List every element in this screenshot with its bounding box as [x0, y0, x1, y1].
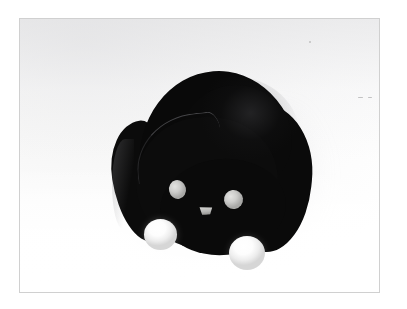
photo-page — [0, 0, 407, 309]
film-speckle — [358, 97, 363, 98]
film-speckle — [368, 97, 372, 98]
foot-left — [144, 219, 177, 250]
film-speckle — [309, 41, 311, 43]
foot-right — [229, 236, 265, 270]
figurine-subject — [20, 19, 379, 292]
photograph-image — [20, 19, 379, 292]
photo-frame — [19, 18, 380, 293]
